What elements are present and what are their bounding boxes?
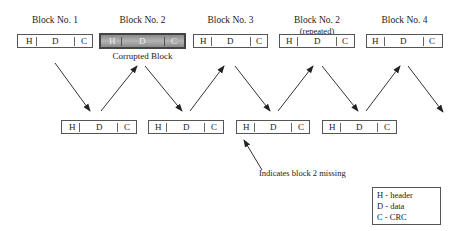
field-crc: C — [81, 36, 87, 46]
bottom-block-1: H D C — [61, 120, 137, 134]
field-separator — [291, 123, 292, 132]
field-separator — [384, 37, 385, 46]
missing-block-annotation: Indicates block 2 missing — [259, 168, 346, 178]
annotation-arrow — [244, 140, 262, 170]
field-data: D — [52, 36, 59, 46]
block-label-2: Block No. 2 — [99, 15, 186, 25]
field-data: D — [96, 122, 103, 132]
legend: H - header D - data C - CRC — [372, 187, 441, 225]
arrow-up-4 — [366, 66, 400, 111]
field-separator — [117, 123, 118, 132]
field-data: D — [314, 36, 321, 46]
top-block-3: H D C — [193, 34, 268, 48]
field-separator — [204, 123, 205, 132]
arrow-down-1 — [55, 63, 90, 111]
field-separator — [377, 123, 378, 132]
arrow-up-1 — [101, 66, 137, 111]
field-crc: C — [256, 36, 262, 46]
field-separator — [121, 37, 122, 46]
field-separator — [423, 37, 424, 46]
field-header: H — [155, 122, 162, 132]
bottom-block-3: H D C — [236, 120, 310, 134]
field-header: H — [372, 36, 379, 46]
field-data: D — [227, 36, 234, 46]
field-header: H — [200, 36, 207, 46]
field-separator — [74, 37, 75, 46]
field-data: D — [356, 122, 363, 132]
field-header: H — [329, 122, 336, 132]
field-separator — [297, 37, 298, 46]
field-crc: C — [211, 122, 217, 132]
field-separator — [164, 37, 165, 46]
field-data: D — [139, 36, 146, 46]
block-label-4: Block No. 4 — [366, 15, 443, 25]
field-header: H — [69, 122, 76, 132]
field-separator — [336, 37, 337, 46]
field-separator — [166, 123, 167, 132]
field-crc: C — [298, 122, 304, 132]
top-block-1: H D C — [17, 34, 93, 48]
top-block-2-repeated: H D C — [279, 34, 355, 48]
field-separator — [36, 37, 37, 46]
field-separator — [250, 37, 251, 46]
field-header: H — [286, 36, 293, 46]
field-header: H — [243, 122, 250, 132]
arrow-up-3 — [278, 66, 313, 111]
top-block-2-corrupted: H D C — [99, 33, 186, 49]
field-separator — [254, 123, 255, 132]
field-crc: C — [429, 36, 435, 46]
arrow-down-3 — [235, 66, 270, 111]
legend-item-data: D - data — [377, 201, 436, 212]
field-crc: C — [171, 36, 177, 46]
field-header: H — [26, 36, 33, 46]
arrow-down-2 — [145, 66, 182, 111]
arrow-down-4 — [322, 66, 358, 111]
field-separator — [340, 123, 341, 132]
corrupted-caption: Corrupted Block — [99, 51, 186, 61]
field-crc: C — [124, 122, 130, 132]
field-data: D — [183, 122, 190, 132]
field-separator — [211, 37, 212, 46]
arrow-down-5 — [408, 66, 443, 112]
field-data: D — [270, 122, 277, 132]
field-header: H — [109, 36, 116, 46]
legend-item-crc: C - CRC — [377, 212, 436, 223]
arrow-up-2 — [190, 66, 224, 111]
field-separator — [79, 123, 80, 132]
bottom-block-2: H D C — [148, 120, 224, 134]
top-block-4: H D C — [366, 34, 443, 48]
block-label-1: Block No. 1 — [17, 15, 93, 25]
legend-item-header: H - header — [377, 190, 436, 201]
field-crc: C — [342, 36, 348, 46]
field-data: D — [400, 36, 407, 46]
field-crc: C — [384, 122, 390, 132]
block-label-3: Block No. 3 — [193, 15, 268, 25]
bottom-block-4: H D C — [322, 120, 397, 134]
block-label-2-repeated: Block No. 2 — [279, 15, 355, 25]
